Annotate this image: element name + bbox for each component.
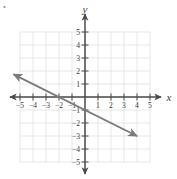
y-tick-label: −2 (72, 119, 80, 128)
y-tick-label: −4 (72, 145, 80, 154)
x-tick-label: 5 (148, 101, 152, 110)
x-tick-label: −4 (29, 101, 37, 110)
scan-speck (3, 6, 5, 8)
coordinate-plane-svg: −5 −4 −3 −2 −1 1 2 3 4 5 5 4 3 2 1 −1 −2… (0, 0, 177, 179)
x-tick-label: −5 (16, 101, 24, 110)
y-tick-label: −3 (72, 132, 80, 141)
y-tick-label: 5 (76, 28, 80, 37)
x-tick-label: 2 (109, 101, 113, 110)
y-tick-label: 4 (76, 41, 80, 50)
x-axis-label: x (166, 91, 172, 103)
x-tick-label: 3 (122, 101, 126, 110)
x-tick-label: −2 (55, 101, 63, 110)
y-tick-label: −5 (72, 158, 80, 167)
x-tick-label: 4 (135, 101, 139, 110)
y-tick-label: 3 (76, 54, 80, 63)
y-tick-label: 1 (76, 80, 80, 89)
graph-figure: −5 −4 −3 −2 −1 1 2 3 4 5 5 4 3 2 1 −1 −2… (0, 0, 177, 179)
x-tick-label: −3 (42, 101, 50, 110)
x-tick-label: 1 (96, 101, 100, 110)
y-axis-label: y (82, 3, 88, 15)
y-tick-label: 2 (76, 67, 80, 76)
